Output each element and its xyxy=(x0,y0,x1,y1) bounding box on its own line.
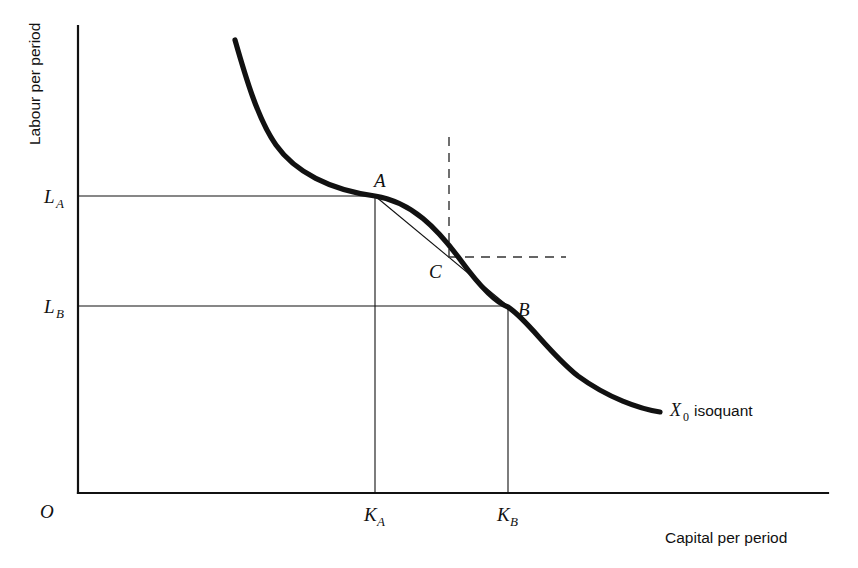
isoquant-label-text: isoquant xyxy=(694,402,753,419)
y-tick-label-lb: L B xyxy=(43,296,64,321)
y-tick-labels-group: L A L B xyxy=(43,186,64,321)
figure-page: Labour per period Capital per period O L… xyxy=(0,0,858,568)
y-tick-label-lb-base: L xyxy=(43,296,55,317)
axis-titles-group: Labour per period Capital per period O xyxy=(26,23,787,546)
y-tick-label-lb-sub: B xyxy=(56,306,64,321)
y-tick-label-la-sub: A xyxy=(55,196,64,211)
y-tick-label-la-base: L xyxy=(43,186,55,207)
isoquant-curve-group xyxy=(235,40,660,412)
point-label-b: B xyxy=(518,299,530,320)
point-label-a: A xyxy=(372,170,386,191)
y-axis-title: Labour per period xyxy=(26,23,43,145)
x-tick-label-kb-sub: B xyxy=(510,514,518,529)
x-tick-label-ka: K A xyxy=(363,504,385,529)
x-tick-label-ka-base: K xyxy=(363,504,378,525)
isoquant-curve xyxy=(235,40,660,412)
x-tick-label-ka-sub: A xyxy=(376,514,385,529)
y-tick-label-la: L A xyxy=(43,186,64,211)
isoquant-label-base: X xyxy=(669,400,682,420)
isoquant-label-subscript: 0 xyxy=(683,410,689,424)
x-axis-title: Capital per period xyxy=(665,529,787,546)
isoquant-curve-label-group: X 0 isoquant xyxy=(669,400,753,424)
x-tick-label-kb: K B xyxy=(496,504,518,529)
point-label-c: C xyxy=(429,261,442,282)
axes-group xyxy=(78,26,828,493)
x-tick-labels-group: K A K B xyxy=(363,504,518,529)
x-tick-label-kb-base: K xyxy=(496,504,511,525)
dashed-lines-group xyxy=(449,137,566,259)
origin-label: O xyxy=(40,501,54,522)
isoquant-diagram: Labour per period Capital per period O L… xyxy=(0,0,858,568)
